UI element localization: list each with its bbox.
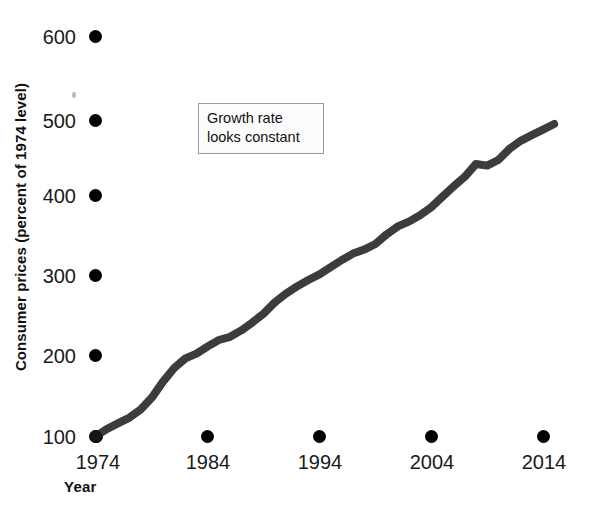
plot-area: [0, 0, 589, 516]
consumer-prices-line: [96, 124, 554, 436]
series-start-marker: [90, 430, 102, 442]
chart-figure: Consumer prices (percent of 1974 level) …: [0, 0, 589, 516]
